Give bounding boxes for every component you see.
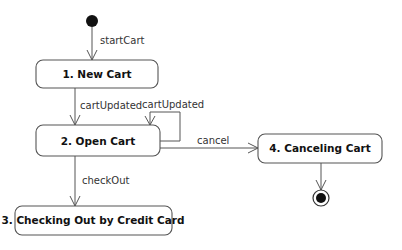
transition-to-final xyxy=(316,163,326,190)
transition-label-checkout: checkOut xyxy=(82,175,129,186)
transition-startcart xyxy=(87,27,97,60)
state-label-new-cart: 1. New Cart xyxy=(62,68,131,80)
state-new-cart: 1. New Cart xyxy=(36,60,158,88)
state-open-cart: 2. Open Cart xyxy=(36,125,160,156)
initial-state xyxy=(86,15,98,27)
transition-label-cartupdated: cartUpdated xyxy=(80,100,142,111)
state-label-checking-out: 3. Checking Out by Credit Card xyxy=(1,214,184,226)
state-label-canceling-cart: 4. Canceling Cart xyxy=(269,142,370,154)
state-canceling-cart: 4. Canceling Cart xyxy=(258,134,382,163)
final-state xyxy=(313,190,329,206)
state-label-open-cart: 2. Open Cart xyxy=(61,135,136,147)
transition-label-cartupdated-self: cartUpdated xyxy=(142,99,204,110)
state-diagram: startCart 1. New Cart cartUpdated cartUp… xyxy=(0,0,402,250)
state-checking-out: 3. Checking Out by Credit Card xyxy=(1,206,184,235)
transition-label-cancel: cancel xyxy=(197,135,229,146)
transition-cartupdated xyxy=(70,88,80,125)
transition-checkout xyxy=(70,156,80,206)
transition-label-startcart: startCart xyxy=(100,35,145,46)
